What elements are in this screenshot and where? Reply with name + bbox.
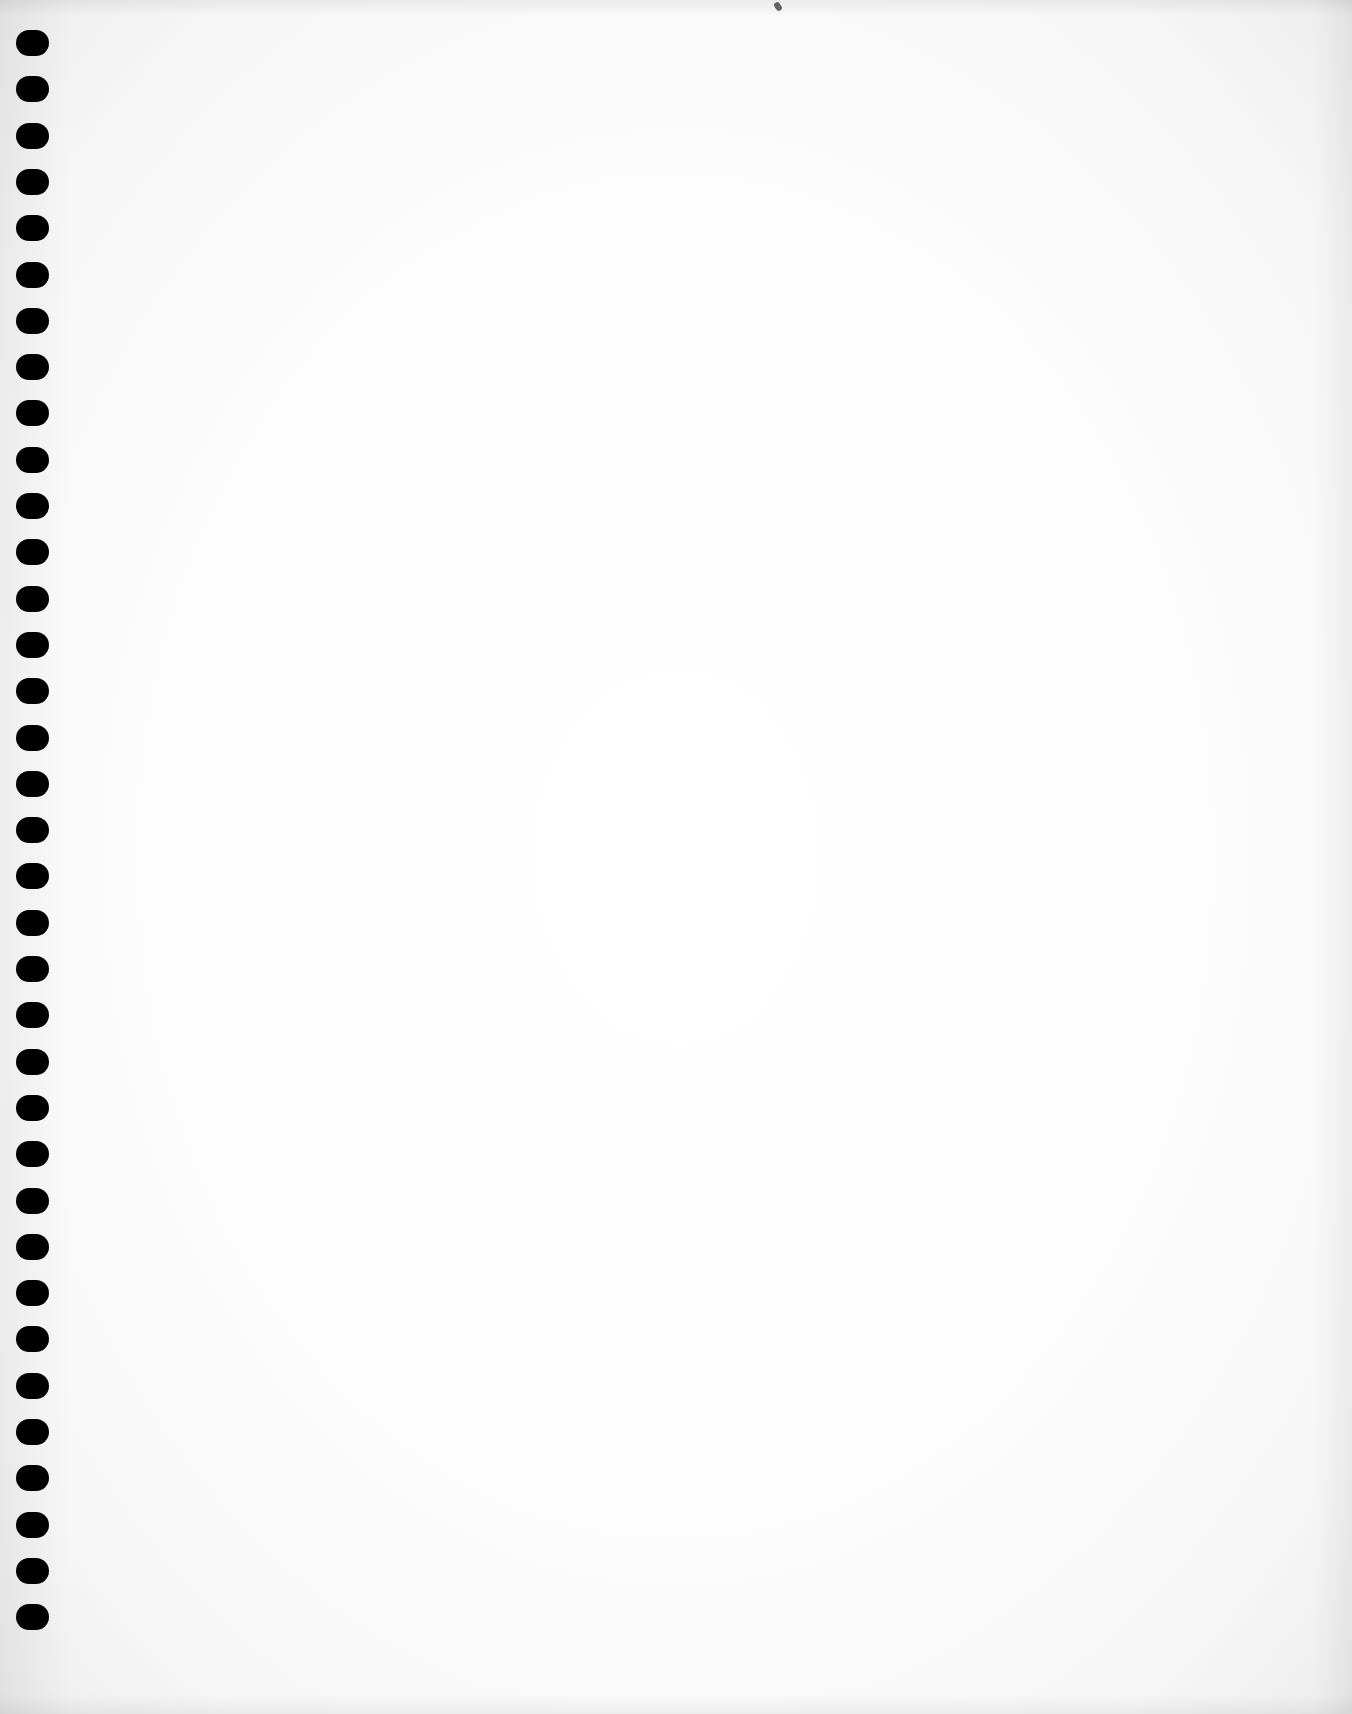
binder-hole	[16, 215, 49, 241]
binder-hole	[16, 771, 49, 797]
binder-hole	[16, 863, 49, 889]
right-edge-shadow	[1312, 0, 1352, 1714]
binder-hole	[16, 956, 49, 982]
binder-hole	[16, 1049, 49, 1075]
binder-hole	[16, 447, 49, 473]
binder-hole	[16, 1419, 49, 1445]
binder-hole	[16, 817, 49, 843]
binder-hole	[16, 354, 49, 380]
bottom-edge-shadow	[0, 1694, 1352, 1714]
binder-hole	[16, 123, 49, 149]
binder-hole	[16, 910, 49, 936]
binder-hole	[16, 1465, 49, 1491]
binder-hole	[16, 678, 49, 704]
binder-hole	[16, 1095, 49, 1121]
binder-hole	[16, 1373, 49, 1399]
binder-hole	[16, 1141, 49, 1167]
binder-hole	[16, 308, 49, 334]
binder-hole	[16, 725, 49, 751]
binder-hole	[16, 262, 49, 288]
binder-holes-column	[16, 0, 50, 1714]
binder-hole	[16, 1326, 49, 1352]
binder-hole	[16, 1002, 49, 1028]
binder-hole	[16, 1280, 49, 1306]
binder-hole	[16, 539, 49, 565]
binder-hole	[16, 400, 49, 426]
top-edge-shadow	[0, 0, 1352, 16]
notebook-page	[0, 0, 1352, 1714]
binder-hole	[16, 1558, 49, 1584]
binder-hole	[16, 1604, 49, 1630]
binder-hole	[16, 493, 49, 519]
binder-hole	[16, 76, 49, 102]
binder-hole	[16, 30, 49, 56]
binder-hole	[16, 586, 49, 612]
binder-hole	[16, 1234, 49, 1260]
binder-hole	[16, 632, 49, 658]
binder-hole	[16, 1512, 49, 1538]
binder-hole	[16, 169, 49, 195]
binder-hole	[16, 1188, 49, 1214]
